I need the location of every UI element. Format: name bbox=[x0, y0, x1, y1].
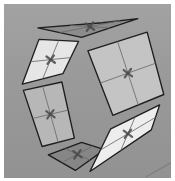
window-frame bbox=[0, 0, 175, 181]
panel-right[interactable] bbox=[88, 32, 164, 115]
3d-viewport[interactable] bbox=[4, 4, 171, 178]
panel-upper-left[interactable] bbox=[22, 39, 78, 84]
panel-lower-left[interactable] bbox=[23, 82, 74, 146]
panel-group bbox=[22, 19, 163, 172]
scene-canvas[interactable] bbox=[4, 4, 171, 178]
floor-line bbox=[146, 158, 171, 177]
panel-lower-right[interactable] bbox=[90, 105, 160, 172]
panel-top[interactable] bbox=[38, 19, 138, 38]
